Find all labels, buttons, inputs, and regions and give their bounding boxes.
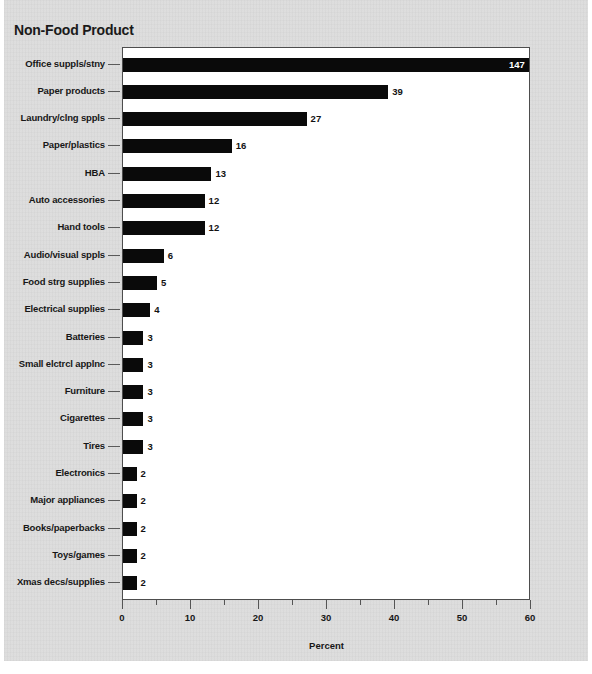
category-label-row: HBA [0, 166, 105, 180]
bar-value-label: 2 [141, 467, 146, 481]
category-label: HBA [85, 166, 105, 180]
category-label-row: Audio/visual sppls [0, 248, 105, 262]
bar-value-label: 16 [236, 139, 247, 153]
x-axis-tick-label: 0 [119, 612, 124, 623]
y-axis-tick [108, 337, 120, 338]
bar [123, 467, 137, 481]
category-label: Electrical supplies [24, 302, 105, 316]
x-axis-tick-labels: 0102030405060 [122, 612, 531, 628]
y-axis-tick [108, 255, 120, 256]
category-label: Furniture [65, 384, 105, 398]
category-label: Paper products [37, 84, 105, 98]
y-axis-tick [108, 282, 120, 283]
y-axis-tick [108, 446, 120, 447]
bar-value-label: 2 [141, 494, 146, 508]
x-axis-minor-tick [224, 600, 225, 605]
bar [123, 385, 143, 399]
bar [123, 139, 232, 153]
y-axis-tick [108, 118, 120, 119]
x-axis-tick-label: 10 [185, 612, 196, 623]
x-axis-ticks [122, 600, 531, 612]
category-label: Paper/plastics [43, 138, 105, 152]
category-label: Audio/visual sppls [24, 248, 105, 262]
x-axis-minor-tick [292, 600, 293, 605]
category-label-row: Office suppls/stny [0, 57, 105, 71]
category-label-row: Electronics [0, 466, 105, 480]
y-axis-tick [108, 473, 120, 474]
x-axis-minor-tick [156, 600, 157, 605]
chart-page: Non-Food Product Office suppls/stnyPaper… [0, 0, 592, 674]
category-label: Office suppls/stny [25, 57, 105, 71]
x-axis-tick-label: 40 [389, 612, 400, 623]
y-axis-tick [108, 500, 120, 501]
bar-value-label: 3 [147, 412, 152, 426]
x-axis-major-tick [122, 600, 123, 609]
bar-value-label: 3 [147, 331, 152, 345]
bar [123, 412, 143, 426]
bar [123, 249, 164, 263]
y-axis-tick [108, 582, 120, 583]
bar-value-label: 13 [215, 167, 226, 181]
category-label: Auto accessories [29, 193, 105, 207]
x-axis-minor-tick [428, 600, 429, 605]
category-label: Small elctrcl applnc [19, 357, 105, 371]
category-label: Food strg supplies [23, 275, 105, 289]
category-label: Electronics [55, 466, 105, 480]
category-label-row: Laundry/clng sppls [0, 111, 105, 125]
bar [123, 221, 205, 235]
category-label: Batteries [66, 330, 105, 344]
x-axis-tick-label: 50 [457, 612, 468, 623]
y-axis-tick [108, 528, 120, 529]
page-title: Non-Food Product [14, 22, 134, 38]
x-axis-major-tick [530, 600, 531, 609]
x-axis-minor-tick [360, 600, 361, 605]
bar-value-label: 3 [147, 440, 152, 454]
bar-value-label: 3 [147, 385, 152, 399]
x-axis-major-tick [394, 600, 395, 609]
bar-value-label: 39 [392, 85, 403, 99]
category-label: Books/paperbacks [23, 521, 105, 535]
category-label-row: Furniture [0, 384, 105, 398]
bar [123, 522, 137, 536]
bar-value-label: 3 [147, 358, 152, 372]
category-label: Toys/games [52, 548, 105, 562]
bar-value-label: 2 [141, 522, 146, 536]
category-label: Tires [83, 439, 105, 453]
bar [123, 58, 530, 72]
y-axis-tick [108, 309, 120, 310]
category-label-row: Auto accessories [0, 193, 105, 207]
y-axis-tick [108, 200, 120, 201]
category-label-row: Paper products [0, 84, 105, 98]
bar [123, 167, 211, 181]
bar-value-label: 2 [141, 576, 146, 590]
category-label: Major appliances [30, 493, 105, 507]
category-label: Cigarettes [60, 411, 105, 425]
bar-value-label: 12 [209, 194, 220, 208]
x-axis-tick-label: 60 [525, 612, 536, 623]
bar [123, 358, 143, 372]
bar-value-label: 6 [168, 249, 173, 263]
y-axis-tick [108, 364, 120, 365]
bar-value-label: 147 [509, 58, 525, 72]
category-label: Laundry/clng sppls [21, 111, 105, 125]
bar [123, 303, 150, 317]
x-axis-tick-label: 30 [321, 612, 332, 623]
x-axis-title: Percent [122, 640, 531, 651]
category-label-row: Toys/games [0, 548, 105, 562]
category-label: Hand tools [57, 220, 105, 234]
x-axis-major-tick [462, 600, 463, 609]
y-axis-tick [108, 391, 120, 392]
bar-value-label: 4 [154, 303, 159, 317]
bar-value-label: 2 [141, 549, 146, 563]
x-axis-major-tick [190, 600, 191, 609]
bar [123, 494, 137, 508]
bar [123, 549, 137, 563]
bar [123, 440, 143, 454]
category-label-row: Books/paperbacks [0, 521, 105, 535]
category-label-row: Tires [0, 439, 105, 453]
x-axis-minor-tick [496, 600, 497, 605]
bar-value-label: 27 [311, 112, 322, 126]
category-label-row: Small elctrcl applnc [0, 357, 105, 371]
category-label-row: Cigarettes [0, 411, 105, 425]
bar-value-label: 5 [161, 276, 166, 290]
